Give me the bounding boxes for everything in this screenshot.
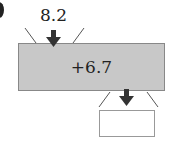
down-arrow-icon <box>46 30 61 47</box>
down-arrow-icon <box>119 89 134 106</box>
input-funnel-left <box>25 28 36 43</box>
output-funnel-right <box>147 92 158 107</box>
input-funnel-right <box>73 28 84 43</box>
funnel-and-arrows <box>0 0 180 143</box>
output-funnel-left <box>99 92 110 107</box>
